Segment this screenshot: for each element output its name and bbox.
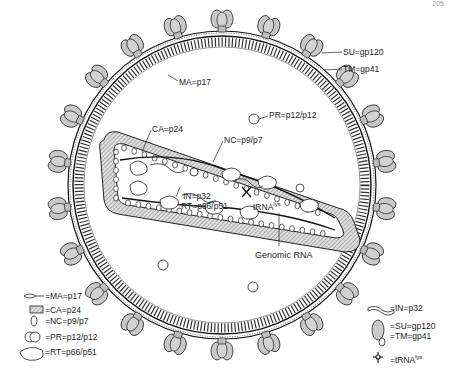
- label-tm: TM=gp41: [343, 64, 379, 74]
- su-tm-icon: [372, 320, 385, 346]
- legend-trna-sup: lys: [415, 354, 422, 360]
- label-su: SU=gp120: [343, 47, 383, 57]
- label-ma: MA=p17: [179, 77, 211, 87]
- rt-icon: [20, 347, 43, 360]
- legend-su: =SU=gp120: [390, 321, 435, 331]
- label-genomic-rna: Genomic RNA: [255, 250, 313, 260]
- label-ca: CA=p24: [152, 124, 183, 134]
- legend-trna: =tRNAlys: [390, 352, 423, 365]
- label-in: IN=p32: [183, 191, 211, 201]
- legend-in: =IN=p32: [390, 303, 423, 313]
- legend-ca: =CA=p24: [45, 305, 81, 315]
- legend-trna-text: =tRNA: [390, 355, 415, 365]
- pr-icon: [25, 332, 40, 342]
- legend-pr: =PR=p12/p12: [45, 332, 97, 342]
- label-nc: NC=p9/p7: [224, 135, 263, 145]
- label-trna: tRNAlys: [253, 199, 281, 212]
- legend-nc: =NC=p9/p7: [45, 316, 88, 326]
- legend-rt: =RT=p66/p51: [45, 347, 97, 357]
- legend-tm: =TM=gp41: [390, 331, 431, 341]
- nc-icon: [31, 316, 37, 326]
- ca-icon: [30, 306, 43, 313]
- trna-text: tRNA: [253, 202, 273, 212]
- legend-ma: =MA=p17: [45, 291, 82, 301]
- trna-sup: lys: [273, 201, 280, 207]
- label-pr: PR=p12/p12: [269, 110, 317, 120]
- ma-icon: [24, 294, 44, 298]
- trna-legend-icon: [373, 352, 383, 363]
- label-rt: RT=p66/p51: [181, 201, 228, 211]
